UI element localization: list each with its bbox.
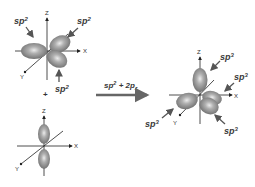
z-axis-label: Z <box>197 49 201 55</box>
pz-lobe-upper <box>38 124 50 144</box>
y-axis-end-dot <box>20 163 22 165</box>
y-axis-end-dot <box>179 114 181 116</box>
sp3-label-left: sp3 <box>145 119 160 129</box>
pz-orbital-group: Z X Y <box>15 108 78 176</box>
x-axis-label: X <box>83 48 87 54</box>
sp3-label-top: sp3 <box>220 52 235 62</box>
y-axis-label: Y <box>20 74 24 80</box>
sp3-label-right: sp3 <box>234 72 249 82</box>
y-axis-label: Y <box>173 120 177 126</box>
sp3-lobe-top <box>193 68 208 92</box>
pointer-arrow <box>162 109 173 118</box>
sp3-orbital-group: Z X Y sp3 sp3 sp3 sp3 <box>145 49 249 136</box>
pointer-arrow <box>68 28 78 37</box>
sp2-orbital-group: Z X Y sp2 sp2 sp2 <box>14 10 92 94</box>
hybridization-diagram: Z X Y sp2 sp2 sp2 + Z X Y sp2 + 2pz <box>0 0 255 187</box>
reaction-arrow-group: sp2 + 2pz <box>96 80 147 95</box>
sp2-label-top-left: sp2 <box>14 16 29 26</box>
pointer-arrow <box>26 27 33 37</box>
plus-sign: + <box>43 90 48 99</box>
z-axis-label: Z <box>42 108 46 114</box>
pz-lobe-lower <box>38 149 50 169</box>
sp3-label-bottom: sp3 <box>224 126 239 136</box>
pointer-arrow <box>215 115 225 124</box>
sp2-label-bottom: sp2 <box>55 84 70 94</box>
y-axis-end-dot <box>24 71 26 73</box>
y-axis-label: Y <box>15 166 19 172</box>
sp3-lobe-left <box>174 90 199 111</box>
sp2-lobe-left <box>21 43 47 59</box>
x-axis-label: X <box>234 93 238 99</box>
reaction-arrow-label: sp2 + 2pz <box>104 80 138 91</box>
x-axis-label: X <box>74 143 78 149</box>
pointer-arrow <box>211 61 220 70</box>
z-axis-label: Z <box>45 10 49 16</box>
pointer-arrow <box>225 83 234 91</box>
sp2-label-top-right: sp2 <box>77 16 92 26</box>
diagram-svg: Z X Y sp2 sp2 sp2 + Z X Y sp2 + 2pz <box>0 0 255 187</box>
